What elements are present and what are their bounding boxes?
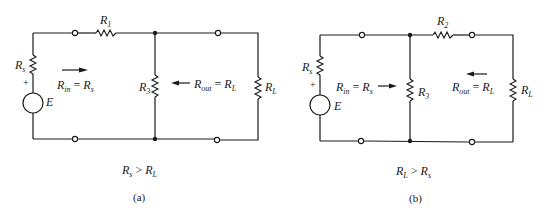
resistor-r2 bbox=[433, 32, 453, 38]
resistor-r3 bbox=[407, 79, 413, 101]
resistor-rl bbox=[255, 77, 261, 99]
condition-a: Rs > RL bbox=[122, 164, 157, 179]
wire bbox=[364, 141, 469, 142]
label-rs: Rs bbox=[15, 59, 25, 74]
wire bbox=[221, 33, 258, 77]
arrow-head bbox=[389, 84, 397, 89]
terminal bbox=[72, 136, 77, 141]
terminal bbox=[469, 32, 474, 37]
terminal bbox=[358, 138, 363, 143]
voltage-source-icon bbox=[23, 93, 43, 113]
label-rout: Rout = RL bbox=[452, 81, 494, 96]
junction bbox=[408, 139, 412, 143]
voltage-source-icon bbox=[310, 95, 330, 115]
resistor-rs bbox=[30, 55, 36, 74]
wire bbox=[220, 139, 258, 140]
terminal bbox=[359, 32, 364, 37]
label-r3: R3 bbox=[139, 81, 150, 96]
label-rout: Rout = RL bbox=[194, 78, 236, 93]
arrow-head bbox=[466, 72, 474, 77]
label-source-e: E bbox=[334, 100, 341, 112]
label-rs: Rs bbox=[302, 61, 312, 76]
condition-b: RL > Rs bbox=[396, 165, 431, 180]
junction bbox=[153, 137, 157, 141]
caption-a: (a) bbox=[133, 192, 145, 203]
label-rl: RL bbox=[265, 81, 277, 96]
arrow-head bbox=[171, 81, 179, 86]
label-r2: R2 bbox=[437, 15, 448, 30]
label-r1: R1 bbox=[100, 14, 111, 29]
resistor-rl bbox=[510, 79, 516, 101]
terminal bbox=[72, 30, 77, 35]
terminal bbox=[469, 139, 474, 144]
label-rl: RL bbox=[521, 84, 533, 99]
terminal bbox=[215, 30, 220, 35]
arrow-head bbox=[79, 68, 88, 73]
caption-b: (b) bbox=[409, 193, 422, 204]
polarity-plus: + bbox=[310, 80, 316, 90]
resistor-r3 bbox=[152, 75, 158, 97]
polarity-plus: + bbox=[23, 78, 29, 88]
label-rin: Rin = Rs bbox=[57, 79, 94, 94]
label-source-e: E bbox=[46, 96, 53, 108]
resistor-r1 bbox=[96, 30, 116, 36]
wire bbox=[475, 35, 513, 79]
label-rin: Rin = Rs bbox=[336, 81, 373, 96]
circuit-diagrams bbox=[0, 0, 547, 212]
label-r3: R3 bbox=[418, 86, 429, 101]
terminal bbox=[214, 137, 219, 142]
resistor-rs bbox=[317, 56, 323, 75]
